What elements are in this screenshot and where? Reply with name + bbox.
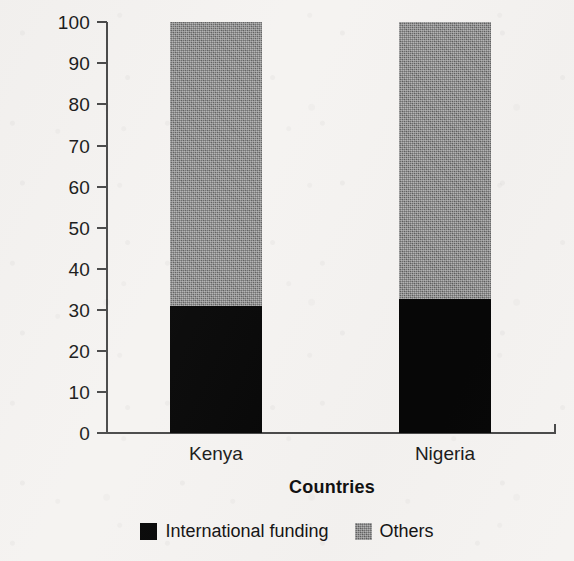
legend-label: International funding (165, 522, 328, 540)
y-tick-mark (97, 391, 107, 393)
legend-item-others[interactable]: Others (355, 522, 434, 540)
y-tick-label: 70 (30, 137, 90, 156)
y-tick-mark (97, 268, 107, 270)
bar-stack-nigeria[interactable] (399, 22, 491, 433)
y-tick-mark (97, 21, 107, 23)
legend-swatch-icon (140, 523, 157, 540)
bar-segment-international-funding[interactable] (399, 299, 491, 433)
y-tick-label: 90 (30, 54, 90, 73)
y-tick-label: 50 (30, 219, 90, 238)
y-tick-label: 30 (30, 301, 90, 320)
x-axis-title: Countries (107, 477, 557, 498)
y-tick-label: 40 (30, 260, 90, 279)
x-category-label-nigeria: Nigeria (379, 444, 511, 465)
y-tick-label: 60 (30, 178, 90, 197)
y-tick-mark (97, 309, 107, 311)
x-axis-endcap-tick (554, 424, 556, 434)
y-tick-mark (97, 186, 107, 188)
bar-stack-kenya[interactable] (170, 22, 262, 433)
bar-segment-others[interactable] (399, 22, 491, 299)
legend-item-international-funding[interactable]: International funding (140, 522, 328, 540)
y-tick-label: 80 (30, 95, 90, 114)
y-tick-mark (97, 350, 107, 352)
y-tick-label: 20 (30, 342, 90, 361)
stacked-bar-chart: 100 90 80 70 60 50 40 30 (0, 0, 574, 561)
y-tick-mark (97, 62, 107, 64)
y-tick-mark (97, 145, 107, 147)
chart-legend: International funding Others (0, 522, 574, 540)
y-tick-label: 10 (30, 383, 90, 402)
legend-label: Others (380, 522, 434, 540)
y-tick-label: 100 (30, 13, 90, 32)
bar-segment-international-funding[interactable] (170, 306, 262, 433)
x-category-label-kenya: Kenya (150, 444, 282, 465)
y-tick-mark (97, 227, 107, 229)
y-tick-mark (97, 103, 107, 105)
y-tick-label: 0 (30, 424, 90, 443)
plot-area: 100 90 80 70 60 50 40 30 (0, 0, 574, 561)
legend-swatch-icon (355, 523, 372, 540)
bar-segment-others[interactable] (170, 22, 262, 306)
